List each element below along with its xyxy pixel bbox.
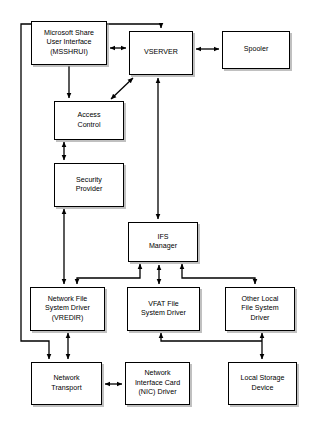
node-nic-driver-label: Network Interface Card (NIC) Driver [133, 369, 182, 397]
node-network-transport-label: Network Transport [49, 374, 83, 393]
architecture-diagram: Microsoft Share User Interface (MSSHRUI)… [0, 0, 312, 424]
node-ifs-manager-label: IFS Manager [147, 233, 179, 252]
node-local-storage-device: Local Storage Device [228, 362, 297, 405]
node-nic-driver: Network Interface Card (NIC) Driver [125, 362, 190, 405]
connector-access-control-vserver [111, 78, 133, 99]
node-other-local-fs-driver-label: Other Local File System Driver [239, 295, 280, 323]
node-vserver: VSERVER [129, 31, 193, 75]
node-local-storage-device-label: Local Storage Device [238, 374, 286, 393]
node-network-fs-driver-label: Network File System Driver (VREDIR) [43, 295, 92, 323]
node-vserver-label: VSERVER [142, 48, 180, 57]
node-security-provider-label: Security Provider [74, 176, 105, 195]
node-other-local-fs-driver: Other Local File System Driver [225, 287, 295, 331]
node-security-provider: Security Provider [54, 163, 124, 207]
node-vfat-driver: VFAT File System Driver [127, 287, 200, 331]
node-spooler: Spooler [222, 31, 290, 69]
node-access-control-label: Access Control [75, 111, 102, 130]
connector-ifs-manager-other-local-fs-driver-down [182, 265, 255, 284]
node-spooler-label: Spooler [242, 45, 271, 54]
node-network-transport: Network Transport [31, 362, 102, 405]
node-msshrui: Microsoft Share User Interface (MSSHRUI) [31, 21, 107, 65]
node-ifs-manager: IFS Manager [128, 222, 198, 262]
node-vfat-driver-label: VFAT File System Driver [139, 300, 188, 319]
node-network-fs-driver: Network File System Driver (VREDIR) [30, 287, 105, 331]
node-msshrui-label: Microsoft Share User Interface (MSSHRUI) [42, 29, 96, 57]
node-access-control: Access Control [54, 101, 124, 140]
connector-ifs-manager-network-fs-driver-down [77, 265, 140, 284]
connector-vfat-driver-local-storage [161, 333, 262, 341]
